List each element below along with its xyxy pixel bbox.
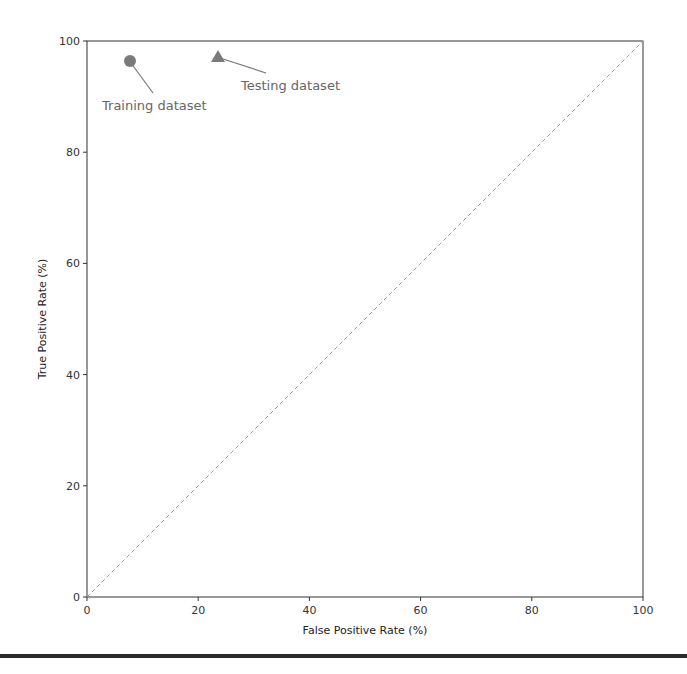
x-tick-label: 40 [302,604,316,617]
x-tick-label: 60 [414,604,428,617]
x-tick-label: 0 [84,604,91,617]
y-tick-label: 0 [73,591,80,604]
x-axis-label: False Positive Rate (%) [303,624,428,637]
y-tick-label: 60 [66,257,80,270]
y-tick-label: 40 [66,369,80,382]
bottom-divider [0,654,687,658]
y-tick-label: 20 [66,480,80,493]
x-tick-label: 20 [191,604,205,617]
testing-annotation: Testing dataset [240,78,340,93]
y-tick-label: 80 [66,146,80,159]
y-axis-label: True Positive Rate (%) [36,259,49,381]
y-tick-label: 100 [59,35,80,48]
x-tick-label: 80 [525,604,539,617]
x-axis: 0 20 40 60 80 100 [84,597,654,617]
training-dataset-point [124,55,136,67]
roc-chart: 0 20 40 60 80 100 0 20 40 60 80 100 Fals… [0,0,687,674]
x-tick-label: 100 [633,604,654,617]
y-axis: 0 20 40 60 80 100 [59,35,87,604]
training-annotation: Training dataset [101,98,207,113]
